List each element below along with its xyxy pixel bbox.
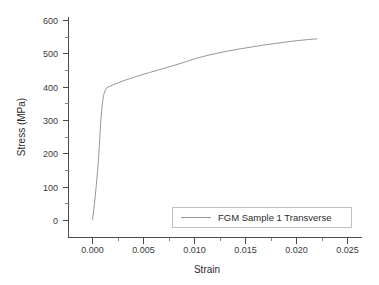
y-tick-label: 600 — [43, 16, 58, 26]
stress-strain-plot: 600 500 400 300 200 100 0 0.000 — [0, 0, 379, 285]
y-tick-label: 300 — [43, 116, 58, 126]
x-tick-label: 0.005 — [132, 245, 155, 255]
y-tick-label: 100 — [43, 183, 58, 193]
x-tick-label: 0.020 — [285, 245, 308, 255]
x-tick-label: 0.025 — [336, 245, 359, 255]
chart-figure: 600 500 400 300 200 100 0 0.000 — [0, 0, 379, 285]
y-tick-label: 0 — [53, 216, 58, 226]
x-tick-label: 0.015 — [234, 245, 257, 255]
y-axis-title: Stress (MPa) — [16, 98, 27, 156]
legend[interactable]: FGM Sample 1 Transverse — [173, 208, 352, 228]
figure-background — [0, 0, 379, 285]
x-tick-label: 0.010 — [183, 245, 206, 255]
x-axis-title: Strain — [194, 264, 220, 275]
legend-entry-label: FGM Sample 1 Transverse — [218, 212, 332, 223]
y-tick-label: 200 — [43, 149, 58, 159]
y-tick-label: 400 — [43, 83, 58, 93]
x-tick-label: 0.000 — [81, 245, 104, 255]
y-tick-label: 500 — [43, 49, 58, 59]
